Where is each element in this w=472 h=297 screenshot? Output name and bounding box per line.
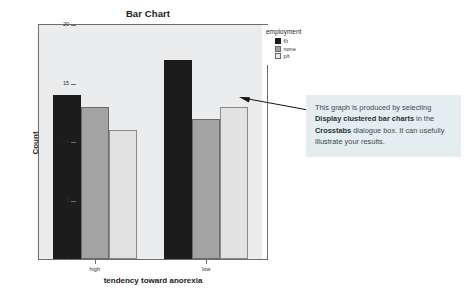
legend-swatch-icon: [275, 46, 281, 52]
annotation-text: This graph is produced by selecting Disp…: [315, 102, 452, 148]
annotation-callout: This graph is produced by selecting Disp…: [306, 95, 461, 157]
annotation-part-1: This graph is produced by selecting: [315, 103, 431, 112]
y-axis: Count 05101520: [38, 25, 39, 259]
annotation-bold-1: Display clustered bar charts: [315, 114, 414, 123]
legend-label: f/t: [284, 38, 289, 44]
chart-page: Bar Chart Count 05101520 highlow tendenc…: [0, 0, 472, 297]
x-tick-label: high: [90, 266, 100, 272]
x-axis-label: tendency toward anorexia: [38, 276, 268, 285]
y-axis-label: Count: [31, 131, 40, 154]
x-tick: [206, 259, 207, 264]
legend-item-none: none: [275, 46, 318, 52]
x-tick: [95, 259, 96, 264]
y-tick-label: 0: [66, 255, 69, 261]
y-tick-label: 10: [63, 138, 69, 144]
y-tick-label: 15: [63, 80, 69, 86]
bar-chart-figure: Bar Chart Count 05101520 highlow tendenc…: [0, 0, 300, 297]
y-tick-label: 20: [63, 21, 69, 27]
bar-high-f/t: [53, 95, 81, 259]
bar-low-p/t: [220, 107, 248, 259]
legend-swatch-icon: [275, 38, 281, 44]
legend-label: none: [284, 46, 296, 52]
bar-low-f/t: [164, 60, 192, 259]
legend-item-p/t: p/t: [275, 53, 318, 59]
annotation-bold-2: Crosstabs: [315, 126, 351, 135]
legend-items: f/tnonep/t: [266, 38, 318, 59]
annotation-part-2: in the: [414, 114, 434, 123]
arrow-left-icon: [238, 96, 310, 112]
chart-title: Bar Chart: [28, 8, 268, 19]
y-tick-label: 5: [66, 197, 69, 203]
legend-item-f/t: f/t: [275, 38, 318, 44]
y-tick: 10: [71, 142, 76, 143]
x-tick-label: low: [202, 266, 210, 272]
y-tick: 5: [71, 201, 76, 202]
legend-label: p/t: [284, 53, 290, 59]
legend-title: employment: [266, 28, 318, 35]
bar-low-none: [192, 119, 220, 259]
y-tick: 15: [71, 84, 76, 85]
x-axis: [38, 259, 268, 260]
legend-swatch-icon: [275, 53, 281, 59]
legend: employment f/tnonep/t: [263, 25, 320, 65]
y-tick: 20: [71, 25, 76, 26]
bar-high-none: [81, 107, 109, 259]
bar-high-p/t: [109, 130, 137, 259]
